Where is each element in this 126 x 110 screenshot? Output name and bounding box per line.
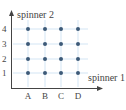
point-B-3	[43, 42, 47, 46]
y-tick-4: 4	[2, 24, 7, 34]
point-B-1	[43, 71, 47, 75]
x-axis-label: spinner 1	[88, 72, 125, 83]
y-axis-label: spinner 2	[17, 9, 54, 20]
y-tick-2: 2	[2, 54, 7, 64]
x-tick-B: B	[42, 91, 48, 101]
y-tick-1: 1	[2, 68, 7, 78]
point-D-3	[76, 42, 80, 46]
point-A-2	[26, 57, 30, 61]
point-C-1	[59, 71, 63, 75]
point-C-2	[59, 57, 63, 61]
point-B-4	[43, 27, 47, 31]
y-axis-arrow-icon	[9, 10, 14, 16]
outcome-points	[26, 27, 80, 75]
point-B-2	[43, 57, 47, 61]
point-A-3	[26, 42, 30, 46]
point-C-3	[59, 42, 63, 46]
point-D-2	[76, 57, 80, 61]
point-A-1	[26, 71, 30, 75]
point-C-4	[59, 27, 63, 31]
sample-space-diagram: spinner 2 spinner 1 4 3 2 1 A B C D	[0, 0, 126, 110]
y-tick-3: 3	[2, 39, 7, 49]
x-tick-D: D	[75, 91, 82, 101]
point-A-4	[26, 27, 30, 31]
x-axis-arrow-icon	[97, 86, 103, 91]
x-tick-C: C	[58, 91, 64, 101]
point-D-4	[76, 27, 80, 31]
x-tick-A: A	[25, 91, 32, 101]
point-D-1	[76, 71, 80, 75]
